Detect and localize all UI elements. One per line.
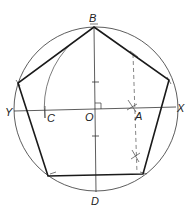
label-B: B — [89, 12, 96, 24]
label-Y: Y — [5, 106, 13, 118]
diameter-BD — [94, 27, 96, 192]
right-angle-marker — [95, 103, 101, 109]
label-D: D — [91, 195, 99, 207]
regular-pentagon — [18, 27, 169, 176]
label-A: A — [134, 110, 142, 122]
label-O: O — [85, 111, 94, 123]
compass-cross-marks — [16, 24, 171, 174]
label-C: C — [47, 112, 55, 124]
label-X: X — [176, 102, 185, 114]
pentagon-construction-diagram: B D X Y O A C — [0, 0, 195, 211]
